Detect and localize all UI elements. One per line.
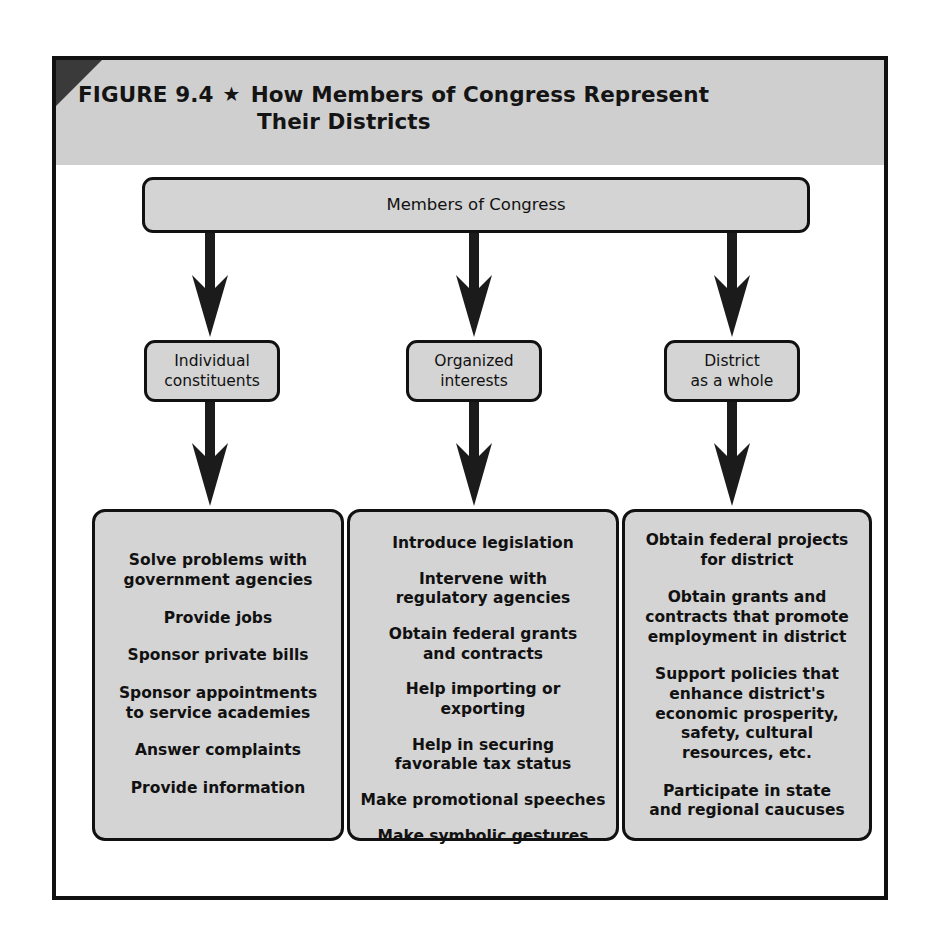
detail-item-list: Solve problems withgovernment agenciesPr… [95, 512, 341, 838]
node-label-line-1: Individual [174, 352, 250, 370]
detail-item: Provide information [131, 779, 305, 799]
diagram-canvas: Members of Congress Individual constitue… [56, 165, 884, 896]
node-label-line-2: constituents [164, 372, 260, 390]
figure-title-line-1: How Members of Congress Represent [251, 82, 709, 107]
node-label-line-1: Organized [434, 352, 513, 370]
detail-item: Participate in stateand regional caucuse… [649, 782, 844, 821]
figure-frame: FIGURE 9.4★How Members of Congress Repre… [52, 56, 888, 900]
star-icon: ★ [214, 81, 251, 108]
node-label-line-1: District [704, 352, 760, 370]
detail-item: Make promotional speeches [361, 791, 606, 811]
node-district-as-a-whole[interactable]: District as a whole [664, 340, 800, 402]
node-label: Individual constituents [164, 351, 260, 392]
detail-item-list: Introduce legislationIntervene withregul… [350, 512, 616, 838]
detail-item: Answer complaints [135, 741, 301, 761]
detail-item: Solve problems withgovernment agencies [124, 551, 313, 590]
figure-header: FIGURE 9.4★How Members of Congress Repre… [56, 60, 884, 165]
node-individual-constituents[interactable]: Individual constituents [144, 340, 280, 402]
arrow-individual-constituents-to-details [192, 402, 228, 506]
arrow-district-as-a-whole-to-details [714, 402, 750, 506]
detail-item: Support policies thatenhance district'se… [655, 665, 839, 763]
arrow-root-to-district-as-a-whole [714, 233, 750, 337]
detail-item: Sponsor appointmentsto service academies [119, 684, 317, 723]
detail-item: Obtain grants andcontracts that promotee… [645, 588, 848, 647]
detail-item: Help in securingfavorable tax status [395, 736, 571, 775]
detail-item: Introduce legislation [392, 534, 573, 554]
detail-item: Intervene withregulatory agencies [396, 570, 571, 609]
arrow-root-to-individual-constituents [192, 233, 228, 337]
node-label-line-2: interests [440, 372, 508, 390]
node-label-line-2: as a whole [691, 372, 774, 390]
figure-title-line-2: Their Districts [257, 109, 431, 134]
detail-item: Sponsor private bills [127, 646, 308, 666]
node-organized-interests[interactable]: Organized interests [406, 340, 542, 402]
figure-title: FIGURE 9.4★How Members of Congress Repre… [78, 81, 868, 110]
detail-item: Obtain federal projectsfor district [646, 531, 849, 570]
detail-item: Help importing orexporting [406, 680, 561, 719]
details-district-as-a-whole[interactable]: Obtain federal projectsfor districtObtai… [622, 509, 872, 841]
node-members-of-congress[interactable]: Members of Congress [142, 177, 810, 233]
arrow-organized-interests-to-details [456, 402, 492, 506]
figure-number: FIGURE 9.4 [78, 82, 214, 107]
detail-item: Make symbolic gestures [378, 827, 589, 847]
details-organized-interests[interactable]: Introduce legislationIntervene withregul… [347, 509, 619, 841]
details-individual-constituents[interactable]: Solve problems withgovernment agenciesPr… [92, 509, 344, 841]
detail-item: Provide jobs [164, 609, 272, 629]
detail-item: Obtain federal grantsand contracts [389, 625, 577, 664]
node-label: Organized interests [434, 351, 513, 392]
node-label: District as a whole [691, 351, 774, 392]
arrow-root-to-organized-interests [456, 233, 492, 337]
node-label: Members of Congress [386, 194, 565, 215]
detail-item-list: Obtain federal projectsfor districtObtai… [625, 512, 869, 838]
